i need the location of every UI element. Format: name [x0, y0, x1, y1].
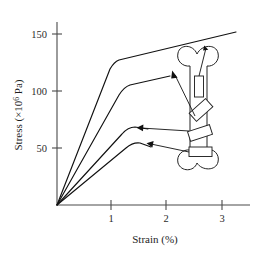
axes-group: [52, 22, 250, 210]
y-tick-label-100: 100: [31, 86, 47, 97]
y-axis-title-prefix: Stress (×10: [12, 100, 25, 150]
curve-specimen-longitudinal-0deg: [57, 32, 236, 205]
leader-arrowhead-oblique-upper: [171, 71, 177, 79]
x-tick-label-1: 1: [108, 213, 113, 224]
x-axis-title: Strain (%): [132, 233, 178, 246]
curves-group: [57, 32, 236, 205]
y-tick-label-150: 150: [31, 29, 47, 40]
oblique-specimen-upper: [189, 99, 213, 122]
leader-to-horizontal: [151, 144, 189, 152]
svg-text:Stress (×106 Pa): Stress (×106 Pa): [12, 79, 26, 150]
y-axis-title-suffix: Pa): [12, 79, 25, 97]
stress-strain-figure: 150 100 50 1 2 3 Strain (%) Stress (×106…: [0, 0, 265, 255]
horizontal-specimen: [189, 147, 212, 157]
leader-to-vertical-specimen: [199, 48, 206, 76]
axis-titles-group: Strain (%) Stress (×106 Pa): [12, 79, 179, 246]
curve-specimen-transverse-90deg: [57, 143, 151, 205]
y-tick-label-50: 50: [37, 143, 48, 154]
leader-to-oblique-upper: [175, 75, 195, 116]
y-axis-title: Stress (×106 Pa): [12, 79, 26, 150]
oblique-specimen-lower: [188, 125, 213, 142]
x-tick-label-3: 3: [219, 213, 224, 224]
x-tick-label-2: 2: [163, 213, 168, 224]
leader-arrowhead-oblique-lower: [137, 125, 144, 132]
plot-canvas: 150 100 50 1 2 3 Strain (%) Stress (×106…: [0, 0, 265, 255]
vertical-specimen: [195, 76, 204, 97]
